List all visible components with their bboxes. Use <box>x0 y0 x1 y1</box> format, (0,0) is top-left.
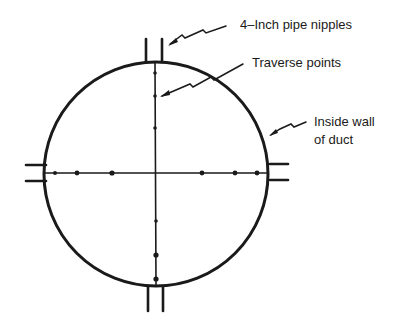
bottom-nipple <box>148 287 163 311</box>
traverse-point <box>153 252 158 257</box>
traverse-point <box>153 126 157 130</box>
traverse-point <box>153 276 158 281</box>
traverse-point <box>255 171 260 176</box>
right-nipple <box>270 164 288 180</box>
traverse-point <box>154 219 158 223</box>
top-nipple <box>146 39 162 62</box>
nipples-leader <box>170 26 226 44</box>
traverse-point <box>153 71 157 75</box>
traverse-point <box>109 170 114 175</box>
traverse-point <box>200 171 205 176</box>
nipples-label: 4–Inch pipe nipples <box>240 16 352 33</box>
traverse-point <box>75 171 80 176</box>
traverse-point <box>153 94 157 98</box>
traverse-point <box>233 171 238 176</box>
traverse-point <box>53 171 57 175</box>
traverse-points-label: Traverse points <box>252 54 341 71</box>
inside-wall-label-line1: Inside wall <box>314 113 375 130</box>
duct-traverse-diagram <box>0 0 411 324</box>
inside-wall-label-line2: of duct <box>314 131 353 148</box>
